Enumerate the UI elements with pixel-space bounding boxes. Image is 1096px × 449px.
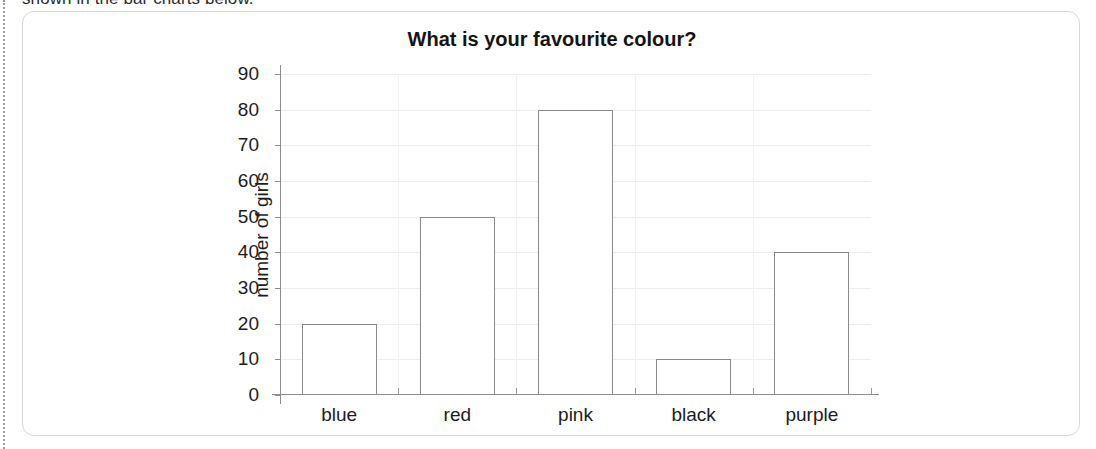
chart-title: What is your favourite colour? xyxy=(23,28,1081,51)
page-margin-rule xyxy=(3,0,5,449)
bar-red xyxy=(420,217,495,395)
bar-chart-figure: What is your favourite colour? number of… xyxy=(23,12,1081,437)
plot-area: number of girls 0102030405060708090 blue… xyxy=(280,74,871,395)
x-axis-label-purple: purple xyxy=(785,404,838,426)
y-axis-tick-label: 70 xyxy=(199,134,259,156)
gridline-vertical xyxy=(635,74,636,395)
gridline-vertical xyxy=(753,74,754,395)
y-axis-tick-label: 80 xyxy=(199,99,259,121)
gridline-vertical xyxy=(516,74,517,395)
y-axis-tick-label: 20 xyxy=(199,313,259,335)
gridline-vertical xyxy=(398,74,399,395)
chart-card: What is your favourite colour? number of… xyxy=(22,11,1080,436)
bar-black xyxy=(656,359,731,395)
bar-purple xyxy=(774,252,849,395)
y-axis-tick-label: 90 xyxy=(199,63,259,85)
x-axis-label-blue: blue xyxy=(321,404,357,426)
y-axis-tick-label: 0 xyxy=(199,384,259,406)
y-axis-tick-label: 40 xyxy=(199,241,259,263)
x-axis-label-black: black xyxy=(672,404,716,426)
y-axis-spine xyxy=(280,65,281,404)
bar-pink xyxy=(538,110,613,395)
y-axis-tick-label: 50 xyxy=(199,206,259,228)
y-axis-tick-label: 10 xyxy=(199,348,259,370)
bar-blue xyxy=(302,324,377,395)
y-axis-tick-label: 60 xyxy=(199,170,259,192)
gridline-horizontal xyxy=(280,74,871,75)
x-axis-label-red: red xyxy=(444,404,471,426)
clipped-body-text: shown in the bar charts below. xyxy=(22,0,254,9)
x-axis-label-pink: pink xyxy=(558,404,593,426)
y-axis-tick-label: 30 xyxy=(199,277,259,299)
